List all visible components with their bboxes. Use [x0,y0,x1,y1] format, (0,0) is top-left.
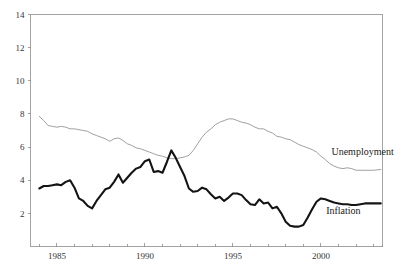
chart-figure: 2468101214 1985199019952000 Unemployment… [0,0,402,271]
x-tick-label: 2000 [312,251,331,261]
line-chart: 2468101214 1985199019952000 Unemployment… [0,0,402,271]
x-tick-label: 1995 [224,251,243,261]
series-label-unemployment: Unemployment [331,146,393,157]
series-inline-labels: UnemploymentInflation [326,146,394,217]
y-axis-tick-labels: 2468101214 [16,10,26,219]
x-axis-tick-labels: 1985199019952000 [48,251,331,261]
y-tick-label: 8 [20,109,25,119]
series-line-unemployment [39,116,380,170]
y-tick-label: 12 [16,43,25,53]
series-label-inflation: Inflation [326,205,360,216]
tick-marks-layer [28,15,374,247]
y-tick-label: 6 [20,142,25,152]
y-tick-label: 14 [16,10,26,20]
y-tick-label: 10 [16,76,26,86]
y-tick-label: 4 [20,175,25,185]
y-tick-label: 2 [20,209,25,219]
x-tick-label: 1985 [48,251,67,261]
x-tick-label: 1990 [136,251,155,261]
